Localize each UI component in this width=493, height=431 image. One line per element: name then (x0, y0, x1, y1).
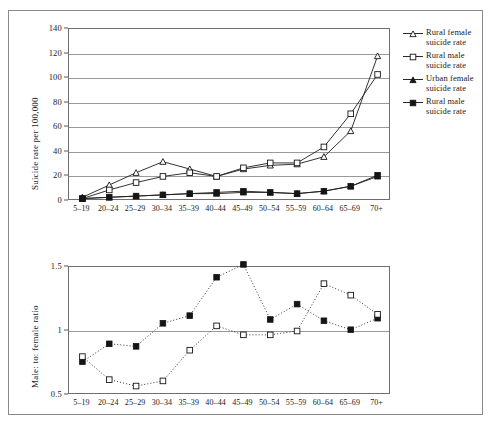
series-marker-0 (321, 318, 327, 324)
x-tick-label: 70+ (370, 204, 383, 213)
series-marker-3 (133, 193, 139, 199)
legend-marker-open-square-icon (403, 52, 423, 62)
x-tick-label: 5–19 (73, 398, 89, 407)
series-marker-1 (294, 160, 300, 166)
male-female-ratio-chart-panel: Male: to: female ratio 0.511.5 5–1920–24… (0, 248, 493, 418)
series-marker-3 (106, 195, 112, 201)
legend-key-glyph (410, 31, 416, 37)
legend-item-0: Rural female suicide rate (403, 28, 471, 47)
series-marker-3 (187, 191, 193, 197)
series-marker-0 (267, 317, 273, 323)
bottom-plot-area (68, 266, 390, 394)
legend-marker-open-triangle-icon (403, 29, 423, 39)
x-tick-label: 50–54 (259, 398, 280, 407)
bottom-x-tick-labels: 5–1920–2425–2930–3435–3940–4445–4950–545… (0, 398, 493, 410)
x-tick-label: 25–29 (125, 398, 146, 407)
series-marker-1 (321, 281, 327, 287)
chart-legend: Rural female suicide rateRural male suic… (403, 28, 489, 120)
series-marker-3 (160, 192, 166, 198)
x-tick-label: 35–39 (179, 204, 200, 213)
series-marker-0 (214, 274, 220, 280)
legend-key-glyph (410, 100, 416, 106)
x-tick-label: 60–64 (313, 204, 334, 213)
bottom-series-canvas (69, 267, 391, 395)
series-marker-0 (133, 344, 139, 350)
series-marker-3 (80, 196, 86, 202)
legend-label: Rural male suicide rate (426, 97, 466, 116)
series-marker-1 (375, 312, 381, 318)
series-marker-3 (294, 191, 300, 197)
series-marker-0 (294, 301, 300, 307)
series-marker-0 (133, 170, 139, 176)
x-tick-label: 55–59 (286, 398, 307, 407)
x-tick-label: 60–64 (313, 398, 334, 407)
legend-item-2: Urban female suicide rate (403, 74, 474, 93)
y-tick-label: 1 (58, 326, 62, 335)
x-tick-label: 65–69 (340, 398, 361, 407)
series-marker-1 (321, 144, 327, 150)
series-marker-0 (241, 262, 247, 268)
series-marker-1 (133, 180, 139, 186)
x-tick-label: 45–49 (232, 398, 253, 407)
x-tick-label: 40–44 (205, 398, 226, 407)
x-tick-label: 45–49 (232, 204, 253, 213)
y-tick-label: 40 (53, 146, 62, 155)
series-marker-0 (348, 128, 354, 134)
top-plot-area (68, 28, 390, 200)
series-marker-1 (160, 174, 166, 180)
y-tick-label: 20 (53, 171, 62, 180)
x-tick-label: 35–39 (179, 398, 200, 407)
top-y-axis-title: Suicide rate per 100,000 (30, 97, 40, 190)
x-tick-label: 25–29 (125, 204, 146, 213)
legend-label: Urban female suicide rate (426, 74, 474, 93)
y-tick-label: 1.5 (51, 262, 62, 271)
x-tick-label: 55–59 (286, 204, 307, 213)
series-marker-1 (133, 383, 139, 389)
x-tick-label: 20–24 (98, 204, 119, 213)
y-tick-label: 140 (49, 24, 62, 33)
series-marker-1 (106, 377, 112, 383)
x-tick-label: 70+ (370, 398, 383, 407)
legend-marker-filled-triangle-icon (403, 75, 423, 85)
series-marker-0 (187, 313, 193, 319)
legend-key-glyph (410, 54, 416, 60)
x-tick-label: 20–24 (98, 398, 119, 407)
series-line-1 (82, 74, 377, 198)
series-marker-1 (267, 332, 273, 338)
x-tick-label: 30–34 (152, 204, 173, 213)
legend-item-3: Rural male suicide rate (403, 97, 466, 116)
y-tick-label: 120 (49, 48, 62, 57)
series-marker-0 (374, 53, 380, 59)
series-marker-1 (294, 328, 300, 334)
series-line-2 (82, 176, 377, 198)
series-marker-1 (106, 187, 112, 193)
series-marker-3 (214, 190, 220, 196)
x-tick-label: 30–34 (152, 398, 173, 407)
series-marker-1 (348, 292, 354, 298)
series-marker-1 (348, 111, 354, 117)
y-tick-label: 80 (53, 97, 62, 106)
series-marker-1 (241, 165, 247, 171)
series-line-0 (82, 56, 377, 197)
series-marker-1 (80, 354, 86, 360)
series-marker-1 (214, 323, 220, 329)
x-tick-label: 65–69 (340, 204, 361, 213)
series-line-1 (82, 284, 377, 386)
figure-root: Suicide rate per 100,000 020406080100120… (0, 0, 493, 431)
series-marker-0 (106, 341, 112, 347)
series-marker-1 (214, 174, 220, 180)
legend-key-glyph (410, 77, 416, 83)
suicide-rate-chart-panel: Suicide rate per 100,000 020406080100120… (0, 0, 493, 225)
series-marker-1 (187, 170, 193, 176)
series-marker-3 (321, 188, 327, 194)
top-x-tick-labels: 5–1920–2425–2930–3435–3940–4445–4950–545… (0, 204, 493, 216)
series-marker-1 (375, 72, 381, 78)
x-tick-label: 5–19 (73, 204, 89, 213)
y-tick-label: 100 (49, 73, 62, 82)
series-marker-1 (187, 347, 193, 353)
series-marker-3 (241, 188, 247, 194)
y-tick-label: 60 (53, 122, 62, 131)
series-marker-3 (348, 183, 354, 189)
series-line-0 (82, 264, 377, 361)
x-tick-label: 40–44 (205, 204, 226, 213)
